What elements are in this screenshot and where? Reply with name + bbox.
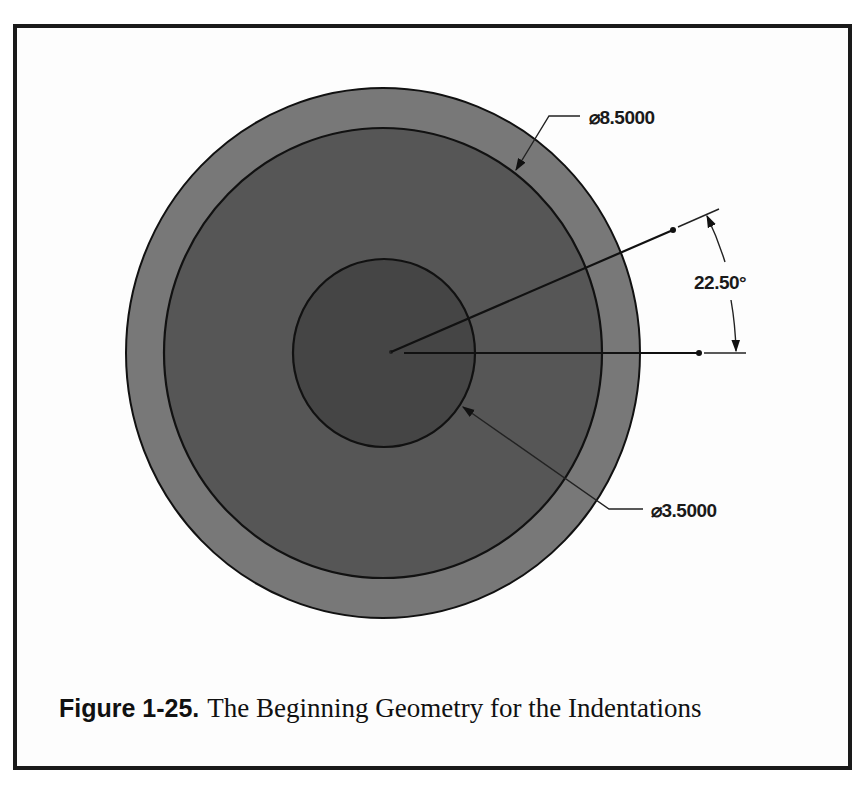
angle-dimension-label: 22.50° bbox=[694, 272, 746, 293]
figure-title: The Beginning Geometry for the Indentati… bbox=[207, 693, 701, 723]
angled-line-endpoint bbox=[670, 227, 676, 233]
figure-label: Figure 1-25. bbox=[59, 694, 199, 722]
inner-diameter-label: ⌀3.5000 bbox=[651, 500, 717, 521]
horizontal-line-endpoint bbox=[696, 350, 702, 356]
angle-dimension-arc-lower bbox=[731, 300, 736, 351]
figure-caption: Figure 1-25.The Beginning Geometry for t… bbox=[59, 693, 701, 724]
angled-extension-line bbox=[678, 209, 719, 227]
outer-diameter-label: ⌀8.5000 bbox=[589, 107, 655, 128]
angle-dimension-arc-upper bbox=[707, 216, 725, 262]
cad-sketch: 22.50° ⌀8.5000 ⌀3.5000 bbox=[0, 0, 860, 791]
